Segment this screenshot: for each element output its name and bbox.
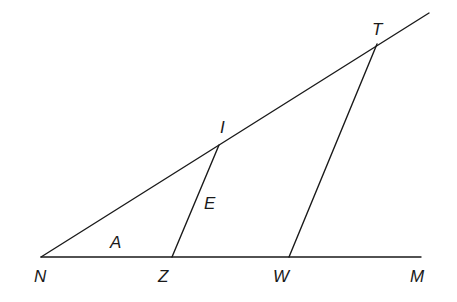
point-label-n: N [34, 267, 47, 286]
geometry-diagram: NZWMIT AE [0, 0, 457, 302]
region-label-e: E [204, 194, 216, 213]
segments [41, 13, 429, 257]
point-label-i: I [220, 118, 225, 137]
interior-labels: AE [109, 194, 216, 252]
point-label-w: W [273, 267, 291, 286]
point-label-t: T [372, 20, 384, 39]
ray-NT [41, 13, 429, 257]
point-labels: NZWMIT [34, 20, 425, 286]
seg-WT [289, 44, 377, 257]
point-label-z: Z [157, 267, 169, 286]
region-label-a: A [109, 233, 121, 252]
point-label-m: M [410, 267, 425, 286]
